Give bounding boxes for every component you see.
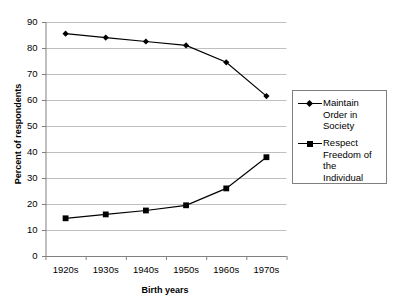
y-tick-label: 60	[12, 95, 38, 105]
y-tick-label: 20	[12, 199, 38, 209]
legend-label: Respect Freedom of the Individual	[323, 137, 372, 183]
x-axis-title: Birth years	[44, 285, 286, 295]
x-tick-label: 1940s	[125, 264, 167, 275]
y-tick-label: 40	[12, 147, 38, 157]
line-chart: Percent of respondents Birth years 01020…	[0, 0, 393, 307]
data-point	[103, 212, 109, 218]
y-tick-label: 0	[12, 251, 38, 261]
y-tick-label: 90	[12, 17, 38, 27]
x-tick-label: 1960s	[205, 264, 247, 275]
y-tick-label: 80	[12, 43, 38, 53]
diamond-marker-icon	[297, 98, 323, 109]
data-point	[264, 154, 270, 160]
data-point	[143, 208, 149, 214]
y-tick-label: 70	[12, 69, 38, 79]
y-tick-label: 50	[12, 121, 38, 131]
data-point	[183, 42, 189, 48]
y-tick-label: 10	[12, 225, 38, 235]
data-point	[223, 186, 229, 192]
series-line-1	[66, 34, 267, 96]
data-point	[63, 215, 69, 221]
legend-label: Maintain Order in Society	[323, 97, 359, 132]
x-tick-label: 1950s	[165, 264, 207, 275]
series-line-2	[66, 157, 267, 218]
data-point	[62, 31, 68, 37]
square-marker-icon	[297, 138, 323, 149]
legend-entry-2: Respect Freedom of the Individual	[297, 137, 385, 183]
data-point	[183, 202, 189, 208]
data-point	[143, 38, 149, 44]
y-tick-label: 30	[12, 173, 38, 183]
legend: Maintain Order in SocietyRespect Freedom…	[292, 90, 387, 184]
x-tick-label: 1930s	[85, 264, 127, 275]
x-tick-label: 1970s	[245, 264, 287, 275]
legend-entry-1: Maintain Order in Society	[297, 97, 385, 132]
x-tick-label: 1920s	[45, 264, 87, 275]
data-point	[103, 35, 109, 41]
